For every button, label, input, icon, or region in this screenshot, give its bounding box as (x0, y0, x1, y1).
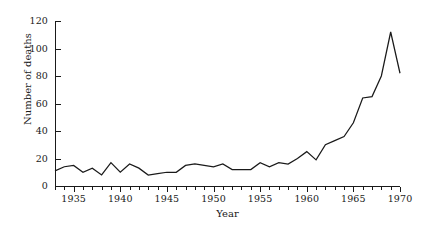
x-tick-1952 (232, 187, 233, 190)
x-tick-1951 (223, 187, 224, 190)
x-tick-1945 (167, 187, 168, 192)
x-tick-1954 (251, 187, 252, 190)
x-tick-1969 (391, 187, 392, 190)
x-tick-1940 (120, 187, 121, 192)
x-tick-1947 (186, 187, 187, 190)
x-tick-1960 (307, 187, 308, 192)
y-tick-label-120: 120 (18, 16, 48, 26)
x-tick-1950 (214, 187, 215, 192)
x-tick-label-1950: 1950 (194, 194, 234, 204)
x-tick-1968 (381, 187, 382, 190)
x-tick-1934 (64, 187, 65, 190)
data-series-line (55, 21, 400, 186)
y-tick-label-60: 60 (18, 99, 48, 109)
x-tick-1963 (335, 187, 336, 190)
x-tick-1936 (83, 187, 84, 190)
x-tick-1957 (279, 187, 280, 190)
x-tick-label-1970: 1970 (380, 194, 420, 204)
x-tick-1935 (74, 187, 75, 192)
series-polyline (55, 32, 400, 175)
x-tick-label-1955: 1955 (240, 194, 280, 204)
x-tick-1941 (130, 187, 131, 190)
y-tick-label-0: 0 (18, 181, 48, 191)
x-tick-1949 (204, 187, 205, 190)
x-tick-1933 (55, 187, 56, 190)
y-tick-0 (56, 186, 61, 187)
x-tick-1955 (260, 187, 261, 192)
x-tick-1964 (344, 187, 345, 190)
x-tick-1942 (139, 187, 140, 190)
x-tick-1959 (297, 187, 298, 190)
x-tick-1956 (269, 187, 270, 190)
x-tick-1939 (111, 187, 112, 190)
x-tick-1965 (353, 187, 354, 192)
x-tick-1970 (400, 187, 401, 192)
plot-area (55, 21, 400, 186)
x-axis-line (55, 186, 400, 187)
y-tick-label-20: 20 (18, 154, 48, 164)
y-tick-label-100: 100 (18, 44, 48, 54)
x-tick-1966 (363, 187, 364, 190)
x-tick-label-1945: 1945 (147, 194, 187, 204)
x-tick-1943 (148, 187, 149, 190)
x-tick-1948 (195, 187, 196, 190)
x-tick-1946 (176, 187, 177, 190)
y-tick-label-80: 80 (18, 71, 48, 81)
x-tick-label-1965: 1965 (333, 194, 373, 204)
x-tick-1967 (372, 187, 373, 190)
x-tick-1953 (241, 187, 242, 190)
y-tick-label-40: 40 (18, 126, 48, 136)
x-tick-1938 (102, 187, 103, 190)
x-tick-label-1960: 1960 (287, 194, 327, 204)
x-tick-label-1935: 1935 (54, 194, 94, 204)
chart-figure: Number of deaths Year 020406080100120 19… (0, 0, 432, 232)
x-tick-1944 (158, 187, 159, 190)
x-tick-1961 (316, 187, 317, 190)
x-axis-label: Year (55, 209, 400, 219)
x-tick-1958 (288, 187, 289, 190)
x-tick-label-1940: 1940 (100, 194, 140, 204)
x-tick-1937 (92, 187, 93, 190)
x-tick-1962 (325, 187, 326, 190)
